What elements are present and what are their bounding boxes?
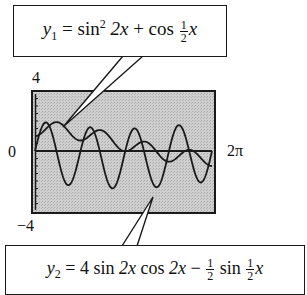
fraction-one-half: 12 — [180, 19, 188, 44]
plot-background — [32, 91, 215, 213]
fraction-one-half: 12 — [246, 257, 254, 282]
fraction-one-half: 12 — [206, 257, 214, 282]
y-min-label: −4 — [17, 217, 34, 235]
equation-box-y2: y2 = 4 sin 2x cos 2x − 12 sin 12 x — [5, 245, 305, 295]
equation-box-y1: y1 = sin2 2x + cos 12 x — [13, 5, 227, 57]
equation-y2: y2 = 4 sin 2x cos 2x − 12 sin 12 x — [47, 257, 263, 282]
equation-y1: y1 = sin2 2x + cos 12 x — [43, 17, 197, 44]
x-max-label: 2π — [227, 142, 243, 160]
y-zero-label: 0 — [8, 143, 16, 161]
y-max-label: 4 — [32, 69, 40, 87]
